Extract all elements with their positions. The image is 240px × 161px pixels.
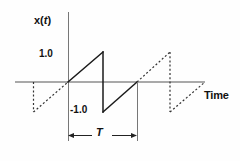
y-tick-label-positive: 1.0 — [39, 49, 53, 59]
x-axis-label: Time — [204, 90, 229, 101]
arrowhead-right — [131, 133, 137, 138]
period-label: T — [96, 127, 103, 138]
waveform-dashed-left — [34, 82, 69, 112]
y-axis-label: x(t) — [34, 15, 51, 26]
y-tick-label-negative: -1.0 — [70, 105, 87, 115]
sawtooth-waveform-figure: x(t) 1.0 -1.0 Time T — [0, 0, 240, 161]
